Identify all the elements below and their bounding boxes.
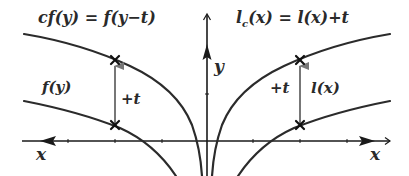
label-shift-left: +t xyxy=(121,92,141,107)
label-cf-equation: cf(y) = f(y−t) xyxy=(38,10,156,26)
x-axis xyxy=(22,136,390,146)
label-x-axis-right: x xyxy=(370,146,380,163)
curve-l xyxy=(238,101,390,176)
label-l: l(x) xyxy=(311,81,340,96)
label-shift-right: +t xyxy=(270,81,290,96)
label-y-axis: y xyxy=(214,58,224,75)
label-f: f(y) xyxy=(42,80,71,95)
curve-cf xyxy=(24,34,202,176)
diagram-canvas: cf(y) = f(y−t) lc(x) = l(x)+t f(y) l(x) … xyxy=(0,0,409,176)
label-x-axis-left: x xyxy=(36,146,46,163)
label-lc-rest: (x) = l(x)+t xyxy=(248,8,349,27)
curve-f xyxy=(24,101,176,176)
y-axis xyxy=(203,14,212,176)
label-lc-equation: lc(x) = l(x)+t xyxy=(236,10,349,29)
